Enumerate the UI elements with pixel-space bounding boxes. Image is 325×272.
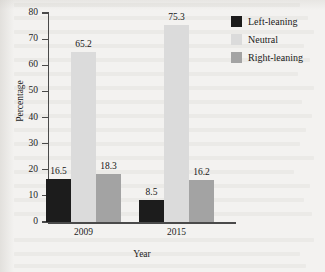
bar — [71, 52, 96, 222]
legend-color-swatch — [231, 34, 242, 45]
legend-item-label: Neutral — [248, 35, 278, 45]
x-axis-tick-label: 2009 — [59, 227, 109, 237]
y-axis-tick-label: 30 — [29, 139, 39, 149]
y-axis-tick-label: 80 — [29, 8, 39, 18]
y-axis-tick-label: 70 — [29, 34, 39, 44]
y-axis-tick-label: 40 — [29, 113, 39, 123]
legend-item-label: Left-leaning — [248, 17, 297, 27]
chart-legend: Left-leaningNeutralRight-leaning — [231, 13, 323, 67]
x-axis-title: Year — [48, 249, 236, 259]
plot-area: 16.565.218.38.575.316.2 — [48, 13, 236, 222]
legend-item-label: Right-leaning — [248, 53, 303, 63]
y-axis-tick-label: 60 — [29, 60, 39, 70]
bar — [96, 174, 121, 222]
legend-color-swatch — [231, 52, 242, 63]
bar-value-label: 18.3 — [90, 162, 127, 172]
y-axis-tick-label: 20 — [29, 165, 39, 175]
legend-item: Left-leaning — [231, 13, 323, 30]
bar-chart: 01020304050607080 20092015 Percentage Ye… — [0, 0, 325, 272]
legend-color-swatch — [231, 16, 242, 27]
bar — [189, 180, 214, 222]
y-axis-title: Percentage — [15, 61, 25, 141]
x-axis-line — [48, 222, 236, 224]
bar — [139, 200, 164, 222]
bar-value-label: 75.3 — [158, 13, 195, 23]
legend-item: Neutral — [231, 31, 323, 48]
y-axis-tick-label: 0 — [33, 217, 38, 227]
bar — [46, 179, 71, 222]
bar-value-label: 65.2 — [65, 40, 102, 50]
bar-value-label: 16.2 — [183, 168, 220, 178]
y-axis-tick-label: 10 — [29, 191, 39, 201]
y-axis-tick-label: 50 — [29, 86, 39, 96]
x-axis-tick-label: 2015 — [152, 227, 202, 237]
bar — [164, 25, 189, 222]
legend-item: Right-leaning — [231, 49, 323, 66]
